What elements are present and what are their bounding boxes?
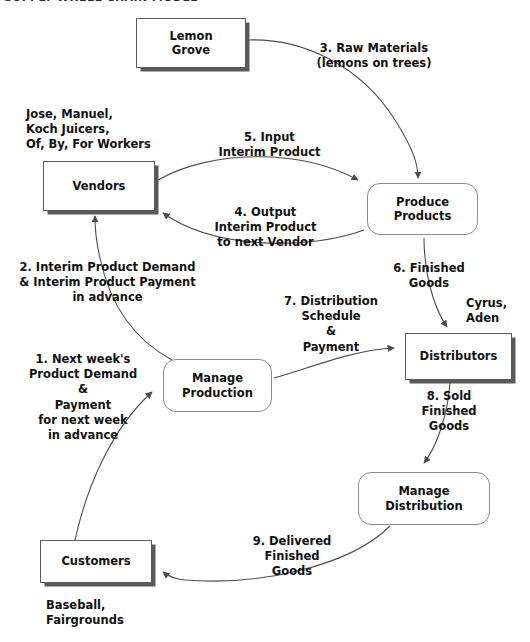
node-manage-distribution[interactable]: Manage Distribution xyxy=(358,472,490,525)
node-label-distributors: Distributors xyxy=(420,349,498,363)
flow-label-flow-6: 6. Finished Goods xyxy=(383,261,475,291)
flow-label-flow-7: 7. Distribution Schedule & Payment xyxy=(272,294,390,355)
node-vendors[interactable]: Vendors xyxy=(43,161,155,211)
flow-label-flow-4: 4. Output Interim Product to next Vendor xyxy=(203,205,328,251)
diagram-title: SUPPLY WHEEL CHAIN MODEL xyxy=(4,0,198,4)
node-label-produce-products: Produce Products xyxy=(394,195,452,223)
node-label-lemon-grove: Lemon Grove xyxy=(169,29,212,57)
node-label-customers: Customers xyxy=(61,554,130,568)
annotation-vendors-actors: Jose, Manuel, Koch Juicers, Of, By, For … xyxy=(26,107,151,153)
node-label-vendors: Vendors xyxy=(73,179,126,193)
flow-label-flow-2: 2. Interim Product Demand & Interim Prod… xyxy=(10,260,205,306)
flow-label-flow-8: 8. Sold Finished Goods xyxy=(404,389,494,435)
diagram-canvas: SUPPLY WHEEL CHAIN MODEL Lemon GroveVend… xyxy=(0,0,530,642)
flow-label-flow-9: 9. Delivered Finished Goods xyxy=(232,534,352,580)
annotation-customers-actors: Baseball, Fairgrounds xyxy=(46,598,124,628)
node-distributors[interactable]: Distributors xyxy=(405,333,512,380)
node-manage-production[interactable]: Manage Production xyxy=(163,359,272,412)
node-lemon-grove[interactable]: Lemon Grove xyxy=(136,18,246,68)
flow-label-flow-1: 1. Next week's Product Demand & Payment … xyxy=(18,352,148,443)
node-produce-products[interactable]: Produce Products xyxy=(367,183,478,235)
node-customers[interactable]: Customers xyxy=(40,540,152,583)
flow-label-flow-3: 3. Raw Materials (lemons on trees) xyxy=(309,41,439,71)
annotation-distributors-actors: Cyrus, Aden xyxy=(466,296,507,326)
node-label-manage-production: Manage Production xyxy=(182,371,253,399)
node-label-manage-distribution: Manage Distribution xyxy=(385,484,462,512)
flow-label-flow-5: 5. Input Interim Product xyxy=(207,130,332,160)
